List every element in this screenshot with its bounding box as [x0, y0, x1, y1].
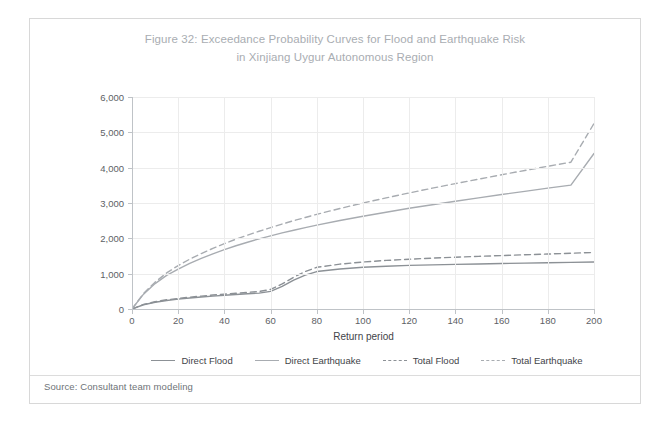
gridline-vertical	[502, 97, 503, 309]
legend-item[interactable]: Total Earthquake	[481, 355, 582, 366]
y-tick-mark	[128, 238, 132, 239]
x-tick-mark	[455, 310, 456, 314]
y-tick-label: 2,000	[80, 233, 124, 244]
y-tick-mark	[128, 97, 132, 98]
y-tick-label: 6,000	[80, 92, 124, 103]
x-tick-label: 20	[173, 315, 184, 326]
x-tick-mark	[224, 310, 225, 314]
legend-swatch	[255, 360, 279, 361]
source-note: Source: Consultant team modeling	[44, 381, 193, 392]
x-tick-label: 40	[219, 315, 230, 326]
x-tick-label: 140	[447, 315, 463, 326]
x-tick-label: 200	[586, 315, 602, 326]
x-tick-label: 120	[401, 315, 417, 326]
y-tick-label: 1,000	[80, 268, 124, 279]
gridline-vertical	[594, 97, 595, 309]
legend-swatch	[481, 360, 505, 361]
x-tick-mark	[502, 310, 503, 314]
x-tick-label: 180	[540, 315, 556, 326]
y-tick-mark	[128, 203, 132, 204]
x-tick-mark	[548, 310, 549, 314]
y-tick-mark	[128, 274, 132, 275]
legend-label: Total Earthquake	[511, 355, 582, 366]
source-divider	[30, 375, 640, 376]
x-tick-label: 60	[265, 315, 276, 326]
x-tick-mark	[178, 310, 179, 314]
chart-legend: Direct FloodDirect EarthquakeTotal Flood…	[132, 355, 602, 366]
figure-title-line2: in Xinjiang Uygur Autonomous Region	[80, 48, 590, 66]
legend-swatch	[383, 360, 407, 361]
x-axis-label: Return period	[132, 331, 595, 342]
y-tick-label: 0	[80, 304, 124, 315]
legend-item[interactable]: Direct Flood	[151, 355, 232, 366]
y-tick-label: 3,000	[80, 198, 124, 209]
legend-item[interactable]: Total Flood	[383, 355, 459, 366]
x-tick-label: 80	[312, 315, 323, 326]
figure-title: Figure 32: Exceedance Probability Curves…	[80, 30, 590, 66]
figure-container: Figure 32: Exceedance Probability Curves…	[0, 0, 670, 431]
gridline-vertical	[548, 97, 549, 309]
x-tick-mark	[409, 310, 410, 314]
y-axis-line	[132, 97, 133, 310]
x-tick-mark	[132, 310, 133, 314]
gridline-vertical	[224, 97, 225, 309]
x-tick-mark	[594, 310, 595, 314]
x-tick-label: 0	[129, 315, 134, 326]
legend-label: Total Flood	[413, 355, 459, 366]
figure-title-line1: Figure 32: Exceedance Probability Curves…	[80, 30, 590, 48]
y-tick-label: 4,000	[80, 162, 124, 173]
legend-label: Direct Flood	[181, 355, 232, 366]
gridline-vertical	[455, 97, 456, 309]
y-tick-label: 5,000	[80, 127, 124, 138]
x-tick-label: 100	[355, 315, 371, 326]
y-tick-mark	[128, 132, 132, 133]
gridline-vertical	[317, 97, 318, 309]
gridline-vertical	[409, 97, 410, 309]
x-tick-mark	[271, 310, 272, 314]
x-tick-mark	[363, 310, 364, 314]
gridline-vertical	[363, 97, 364, 309]
gridline-vertical	[271, 97, 272, 309]
legend-label: Direct Earthquake	[285, 355, 361, 366]
gridline-vertical	[178, 97, 179, 309]
y-tick-mark	[128, 168, 132, 169]
legend-swatch	[151, 360, 175, 361]
x-tick-label: 160	[494, 315, 510, 326]
x-tick-mark	[317, 310, 318, 314]
plot-area	[132, 97, 594, 309]
legend-item[interactable]: Direct Earthquake	[255, 355, 361, 366]
